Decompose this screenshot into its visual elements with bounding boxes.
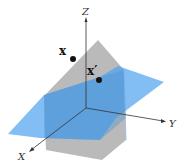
y-arrow-icon — [161, 119, 166, 123]
projection-diagram: Z Y X x x′ — [0, 0, 187, 168]
z-axis-label: Z — [81, 6, 90, 17]
x-axis-label: X — [17, 151, 26, 162]
point-x — [70, 56, 76, 62]
point-x-prime-label: x′ — [87, 64, 97, 78]
y-axis-label: Y — [169, 118, 177, 129]
point-x-label: x — [59, 44, 67, 58]
z-arrow-icon — [85, 17, 88, 22]
